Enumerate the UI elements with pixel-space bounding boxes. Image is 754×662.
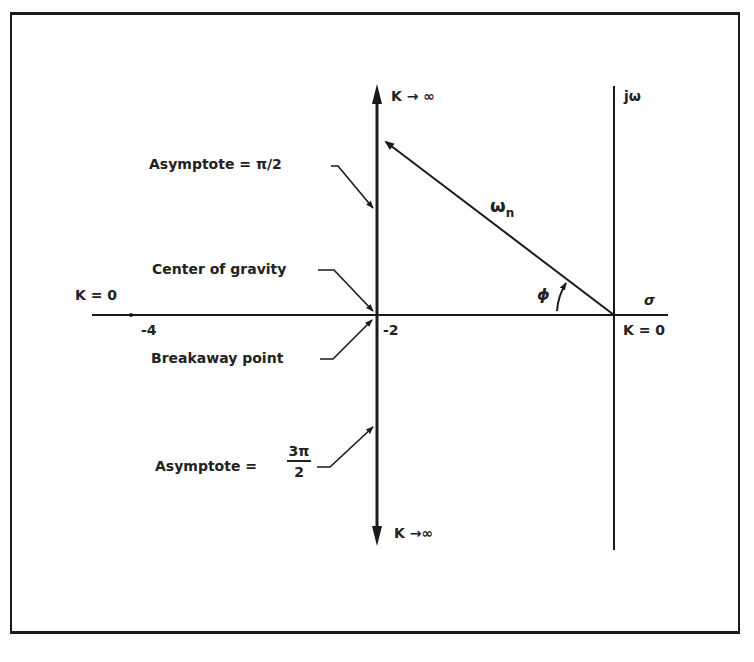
breakaway-point-label: Breakaway point <box>151 350 283 366</box>
arrow-down-icon <box>372 526 382 546</box>
phi-angle-arc <box>557 283 566 311</box>
tick-minus2-label: -2 <box>383 322 399 338</box>
phi-label: ϕ <box>537 285 550 304</box>
arrow-up-icon <box>372 84 382 104</box>
omega-symbol: ω <box>490 195 506 216</box>
imag-axis-label: jω <box>624 88 641 104</box>
asymptote-bottom-fraction: 3π 2 <box>287 442 311 482</box>
omega-n-label: ωn <box>490 195 514 220</box>
k-inf-down-label: K →∞ <box>394 525 433 541</box>
leader-breakaway-point <box>320 320 372 359</box>
leader-asymptote-top <box>331 166 373 208</box>
asymptote-bottom-label: Asymptote = <box>155 458 257 474</box>
real-axis-label: σ <box>644 292 655 308</box>
asymptote-top-label: Asymptote = π/2 <box>149 156 282 172</box>
pole-marker <box>129 313 133 317</box>
k-zero-origin-label: K = 0 <box>623 322 665 338</box>
k-zero-left-label: K = 0 <box>75 287 117 303</box>
leader-center-of-gravity <box>318 270 373 311</box>
fraction-numerator: 3π <box>287 442 311 462</box>
fraction-denominator: 2 <box>287 462 311 482</box>
tick-minus4-label: -4 <box>141 322 157 338</box>
omega-subscript: n <box>506 206 515 220</box>
center-of-gravity-label: Center of gravity <box>152 261 286 277</box>
leader-asymptote-bottom <box>317 427 373 467</box>
k-inf-up-label: K → ∞ <box>391 88 435 104</box>
omega-n-vector <box>386 142 614 315</box>
